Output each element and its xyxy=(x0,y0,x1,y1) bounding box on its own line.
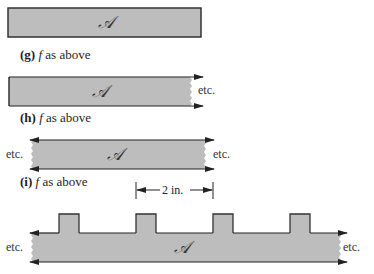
caption-h-func: f xyxy=(39,110,43,125)
etc-right-i: etc. xyxy=(343,240,360,255)
region-symbol-i: 𝒜 xyxy=(174,237,190,257)
diagram-canvas xyxy=(0,0,374,274)
caption-g-letter: (g) xyxy=(20,47,35,62)
caption-h-text: as above xyxy=(46,110,91,125)
caption-g-func: f xyxy=(38,47,42,62)
etc-right-g: etc. xyxy=(198,83,215,98)
caption-i-func: f xyxy=(36,174,40,189)
region-symbol-h: 𝒜 xyxy=(107,144,123,164)
period-label: 2 in. xyxy=(162,183,183,198)
caption-i-letter: (i) xyxy=(20,174,32,189)
caption-h: (h) f as above xyxy=(20,110,91,126)
region-symbol-g: 𝒜 xyxy=(92,81,108,101)
caption-g-text: as above xyxy=(45,47,90,62)
caption-i-text: as above xyxy=(42,174,87,189)
etc-right-h: etc. xyxy=(213,147,230,162)
etc-left-h: etc. xyxy=(6,147,23,162)
etc-left-i: etc. xyxy=(6,240,23,255)
region-symbol-top: 𝒜 xyxy=(98,12,114,32)
caption-h-letter: (h) xyxy=(20,110,36,125)
caption-g: (g) f as above xyxy=(20,47,90,63)
caption-i: (i) f as above xyxy=(20,174,88,190)
